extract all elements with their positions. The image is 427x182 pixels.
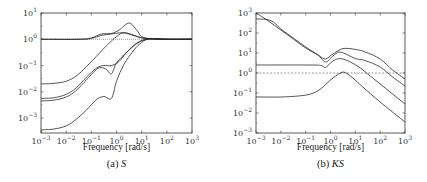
y-tick-label-b: 103 bbox=[238, 6, 252, 18]
curve-S5 bbox=[41, 39, 192, 101]
curve-S6 bbox=[41, 39, 192, 130]
y-tick-label-b: 100 bbox=[238, 66, 252, 78]
y-tick-label-b: 101 bbox=[238, 46, 252, 58]
curve-S3 bbox=[41, 33, 192, 84]
y-tick-label-a: 10−3 bbox=[18, 111, 37, 123]
y-tick-label-a: 10−2 bbox=[18, 85, 37, 97]
plot-area-a: 10−310−210−110010110210310−310−210−11001… bbox=[18, 6, 199, 146]
caption-a-prefix: (a) bbox=[107, 158, 119, 169]
x-axis-title-a: Frequency [rad/s] bbox=[41, 142, 192, 152]
y-tick-label-b: 102 bbox=[238, 26, 252, 38]
y-tick-label-a: 101 bbox=[23, 6, 37, 18]
panel-b-control-sensitivity: 10−310−210−110010110210310−310−210−11001… bbox=[213, 0, 427, 182]
x-axis-title-b: Frequency [rad/s] bbox=[256, 142, 405, 152]
curve-KS2 bbox=[256, 19, 405, 86]
panel-a-sensitivity: 10−310−210−110010110210310−310−210−11001… bbox=[0, 0, 213, 182]
y-tick-label-b: 10−2 bbox=[233, 106, 252, 118]
axes-frame-a bbox=[41, 13, 192, 133]
curve-S2 bbox=[41, 33, 192, 40]
caption-a: (a) S bbox=[41, 158, 192, 169]
y-tick-label-a: 100 bbox=[23, 32, 37, 44]
caption-b-symbol: KS bbox=[332, 158, 344, 169]
y-tick-label-a: 10−1 bbox=[18, 59, 37, 71]
y-tick-label-b: 10−1 bbox=[233, 86, 252, 98]
curve-KS4 bbox=[256, 72, 405, 122]
curve-S4 bbox=[41, 39, 192, 99]
plot-b-svg: 10−310−210−110010110210310−310−210−11001… bbox=[213, 0, 427, 182]
plot-area-b: 10−310−210−110010110210310−310−210−11001… bbox=[233, 6, 412, 146]
caption-b-prefix: (b) bbox=[317, 158, 329, 169]
plot-a-svg: 10−310−210−110010110210310−310−210−11001… bbox=[0, 0, 213, 182]
caption-a-symbol: S bbox=[121, 158, 126, 169]
caption-b: (b) KS bbox=[256, 158, 405, 169]
